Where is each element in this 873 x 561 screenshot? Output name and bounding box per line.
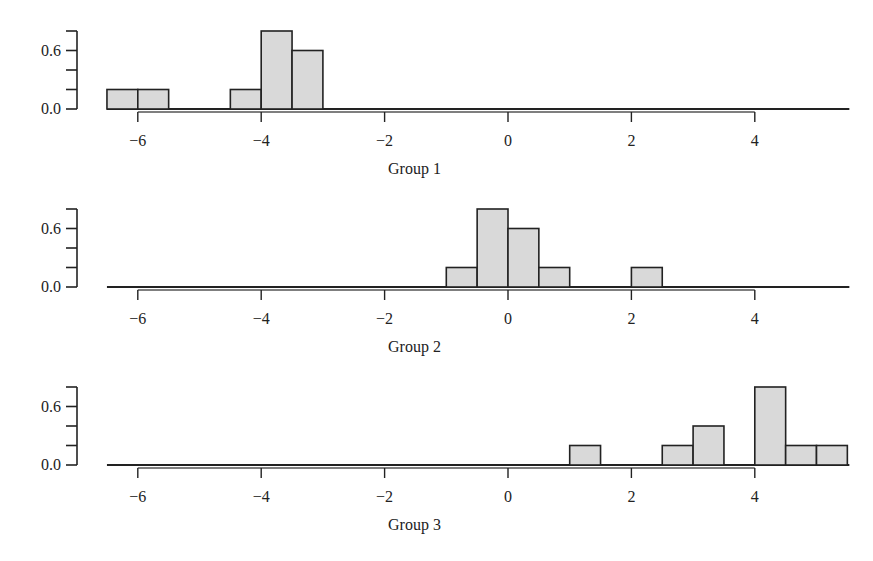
- histogram-bar: [755, 387, 786, 465]
- x-tick-label: 2: [627, 488, 635, 505]
- x-tick-label: −4: [253, 488, 270, 505]
- y-tick-label: 0.0: [41, 278, 61, 295]
- histogram-bar: [817, 446, 848, 466]
- x-tick-label: 2: [627, 132, 635, 149]
- histogram-bar: [662, 446, 693, 466]
- x-tick-label: −2: [376, 132, 393, 149]
- x-tick-label: −6: [129, 488, 146, 505]
- histogram-bar: [261, 31, 292, 109]
- y-tick-label: 0.0: [41, 100, 61, 117]
- histogram-bar: [138, 90, 169, 110]
- y-tick-label: 0.6: [41, 398, 61, 415]
- histogram-figure: 0.00.6−6−4−2024Group 10.00.6−6−4−2024Gro…: [0, 0, 873, 561]
- histogram-bar: [631, 268, 662, 288]
- chart-svg: 0.00.6−6−4−2024Group 10.00.6−6−4−2024Gro…: [0, 0, 873, 561]
- histogram-bar: [539, 268, 570, 288]
- x-tick-label: −6: [129, 310, 146, 327]
- x-tick-label: 0: [504, 310, 512, 327]
- x-tick-label: −4: [253, 310, 270, 327]
- y-tick-label: 0.0: [41, 456, 61, 473]
- x-tick-label: −6: [129, 132, 146, 149]
- y-tick-label: 0.6: [41, 42, 61, 59]
- x-tick-label: −4: [253, 132, 270, 149]
- x-tick-label: 2: [627, 310, 635, 327]
- x-tick-label: 4: [751, 132, 759, 149]
- panel-label: Group 3: [388, 516, 441, 534]
- panel-label: Group 2: [388, 338, 441, 356]
- x-tick-label: 4: [751, 310, 759, 327]
- x-tick-label: 0: [504, 132, 512, 149]
- x-tick-label: 4: [751, 488, 759, 505]
- histogram-bar: [570, 446, 601, 466]
- histogram-bar: [107, 90, 138, 110]
- x-tick-label: −2: [376, 488, 393, 505]
- histogram-bar: [230, 90, 261, 110]
- histogram-bar: [508, 229, 539, 288]
- histogram-bar: [446, 268, 477, 288]
- x-tick-label: 0: [504, 488, 512, 505]
- histogram-bar: [292, 51, 323, 110]
- histogram-bar: [693, 426, 724, 465]
- x-tick-label: −2: [376, 310, 393, 327]
- y-tick-label: 0.6: [41, 220, 61, 237]
- histogram-bar: [477, 209, 508, 287]
- panel-label: Group 1: [388, 160, 441, 178]
- histogram-bar: [786, 446, 817, 466]
